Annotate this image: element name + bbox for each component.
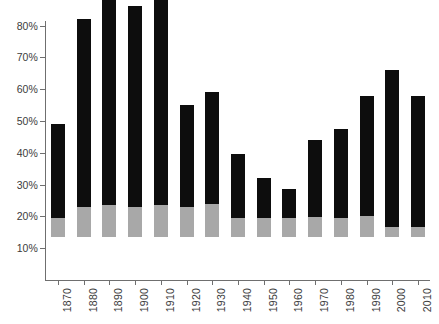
y-axis-tick-label: 50%	[17, 116, 38, 127]
y-axis-tick-label: 30%	[17, 180, 38, 191]
x-axis-tick-label: 1970	[319, 288, 330, 312]
x-axis-tick-label: 1930	[216, 288, 227, 312]
bar-1930	[205, 92, 219, 237]
x-axis-tick	[109, 281, 110, 285]
x-axis-tick	[161, 281, 162, 285]
x-axis-tick	[315, 281, 316, 285]
x-axis-tick-label: 1870	[62, 288, 73, 312]
bar-segment-upper	[411, 96, 425, 228]
x-axis-tick-label: 1920	[191, 288, 202, 312]
x-axis-tick	[135, 281, 136, 285]
x-axis-tick	[289, 281, 290, 285]
bar-segment-upper	[102, 0, 116, 205]
bar-segment-lower	[205, 204, 219, 237]
x-axis-tick-label: 1940	[242, 288, 253, 312]
y-axis-tick-label: 70%	[17, 52, 38, 63]
bar-segment-upper	[360, 96, 374, 217]
bar-segment-upper	[180, 105, 194, 207]
x-axis-tick	[187, 281, 188, 285]
bar-1960	[282, 189, 296, 237]
bar-segment-lower	[128, 207, 142, 237]
plot-area	[45, 0, 431, 281]
x-axis-tick-label: 1910	[165, 288, 176, 312]
bar-segment-upper	[308, 140, 322, 217]
bar-segment-upper	[231, 154, 245, 218]
x-axis-tick-label: 1990	[371, 288, 382, 312]
bar-2000	[385, 70, 399, 237]
bar-segment-lower	[360, 216, 374, 237]
bar-segment-lower	[282, 218, 296, 237]
y-axis-tick-label: 60%	[17, 84, 38, 95]
bar-segment-upper	[257, 178, 271, 218]
bar-1940	[231, 154, 245, 237]
bar-1950	[257, 178, 271, 237]
bar-1980	[334, 129, 348, 237]
bar-segment-lower	[257, 218, 271, 237]
x-axis-tick	[418, 281, 419, 285]
bar-1900	[128, 6, 142, 237]
bar-segment-upper	[385, 70, 399, 227]
x-axis-tick	[367, 281, 368, 285]
bar-segment-lower	[411, 227, 425, 237]
bar-1920	[180, 105, 194, 237]
bar-segment-lower	[154, 205, 168, 237]
y-axis-tick-label: 20%	[17, 211, 38, 222]
x-axis-tick-label: 1950	[268, 288, 279, 312]
x-axis-tick-label: 1900	[139, 288, 150, 312]
bar-segment-lower	[77, 207, 91, 237]
y-axis-tick-label: 10%	[17, 243, 38, 254]
x-axis-tick-label: 1980	[345, 288, 356, 312]
y-axis-tick-label: 40%	[17, 148, 38, 159]
bar-1990	[360, 96, 374, 238]
x-axis-tick	[341, 281, 342, 285]
bar-segment-upper	[154, 0, 168, 205]
bar-segment-lower	[334, 218, 348, 237]
bar-segment-upper	[128, 6, 142, 206]
bar-segment-upper	[282, 189, 296, 218]
bar-segment-lower	[385, 227, 399, 237]
bar-segment-lower	[180, 207, 194, 237]
bar-1890	[102, 0, 116, 237]
y-axis-tick-label: 80%	[17, 21, 38, 32]
x-axis-tick-label: 1890	[113, 288, 124, 312]
bar-segment-lower	[51, 218, 65, 237]
x-axis-tick	[264, 281, 265, 285]
x-axis-tick	[58, 281, 59, 285]
bar-segment-lower	[231, 218, 245, 237]
bar-segment-upper	[205, 92, 219, 204]
bar-1910	[154, 0, 168, 237]
x-axis-tick-label: 2010	[422, 288, 433, 312]
x-axis-tick	[238, 281, 239, 285]
x-axis-tick-label: 1880	[88, 288, 99, 312]
x-axis-tick-label: 1960	[293, 288, 304, 312]
bar-1970	[308, 140, 322, 237]
bar-segment-lower	[308, 217, 322, 237]
bar-chart: 10%20%30%40%50%60%70%80% 187018801890190…	[0, 0, 439, 324]
bar-segment-lower	[102, 205, 116, 237]
bar-segment-upper	[51, 124, 65, 218]
bar-segment-upper	[77, 19, 91, 207]
bar-2010	[411, 96, 425, 238]
x-axis-tick	[212, 281, 213, 285]
bar-1870	[51, 124, 65, 237]
x-axis-tick-label: 2000	[396, 288, 407, 312]
x-axis-tick	[84, 281, 85, 285]
bar-1880	[77, 19, 91, 237]
x-axis-tick	[392, 281, 393, 285]
bar-segment-upper	[334, 129, 348, 218]
